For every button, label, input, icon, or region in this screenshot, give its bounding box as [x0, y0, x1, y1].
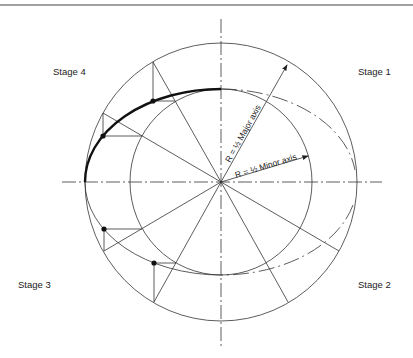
- stage-1-label: Stage 1: [358, 66, 391, 77]
- stage-4-label: Stage 4: [53, 66, 86, 77]
- minor-axis-label: R = ½ Minor axis: [234, 152, 298, 180]
- major-axis-label: R = ½ Major axis: [223, 103, 263, 164]
- stage-3-label: Stage 3: [18, 279, 51, 290]
- ellipse-arc-stage-2: [221, 205, 353, 275]
- stage-2-label: Stage 2: [358, 279, 391, 290]
- ellipse-construction-diagram: R = ½ Major axis R = ½ Minor axis: [0, 0, 413, 358]
